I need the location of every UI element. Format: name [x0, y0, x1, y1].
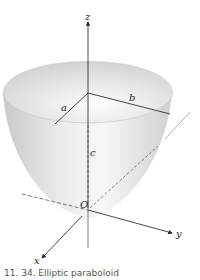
semi-axis-b-label: b [129, 92, 135, 103]
semi-axis-a-label: a [61, 102, 67, 113]
elliptic-paraboloid-diagram: z y x O a b c [0, 0, 200, 280]
z-axis-label: z [84, 11, 91, 22]
y-axis [88, 210, 172, 233]
height-c-label: c [90, 147, 96, 158]
x-axis-label: x [34, 255, 40, 266]
y-axis-label: y [175, 228, 182, 239]
origin-label: O [80, 199, 88, 210]
edge-outer-segment [165, 112, 190, 139]
figure-caption: 11. 34. Elliptic paraboloid [4, 268, 200, 278]
x-axis [42, 216, 82, 258]
